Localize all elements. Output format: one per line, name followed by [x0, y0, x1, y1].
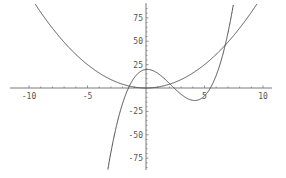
y-tick-label: 50 — [133, 37, 143, 46]
axes — [10, 3, 272, 170]
y-tick-label: -50 — [129, 131, 144, 140]
y-tick-label: 75 — [133, 14, 143, 23]
cubic-curve — [108, 5, 233, 170]
x-tick-label: 10 — [258, 92, 268, 101]
x-tick-label: -10 — [22, 92, 37, 101]
y-tick-label: -75 — [129, 154, 144, 163]
plot-area: -10-5510755025-25-50-75 — [0, 0, 286, 178]
y-tick-label: 25 — [133, 61, 143, 70]
y-tick-label: -25 — [129, 107, 144, 116]
x-tick-label: -5 — [83, 92, 93, 101]
